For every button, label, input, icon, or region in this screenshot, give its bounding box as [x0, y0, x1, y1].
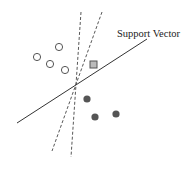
- support-vector-label: Support Vector: [117, 28, 181, 39]
- filled-point: [91, 113, 98, 120]
- dashed-line-2: [52, 12, 102, 151]
- separating-hyperplane: [17, 39, 147, 123]
- open-point: [33, 53, 40, 60]
- filled-point: [83, 95, 90, 102]
- open-class-points: [33, 43, 68, 73]
- open-point: [61, 66, 68, 73]
- open-point: [46, 60, 53, 67]
- filled-class-points: [83, 95, 119, 120]
- square-point: [90, 61, 97, 68]
- filled-point: [112, 110, 119, 117]
- open-point: [55, 43, 62, 50]
- svm-diagram: Support Vector: [0, 0, 190, 170]
